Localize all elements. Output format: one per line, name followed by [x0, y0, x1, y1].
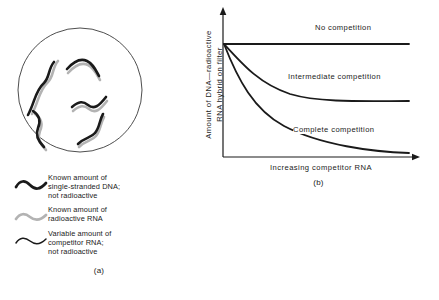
series-label-no-competition: No competition: [315, 23, 371, 32]
panel-b: Amount of DNA—radioactive RNA hybrid on …: [198, 0, 439, 300]
legend-item-rna: Known amount of radioactive RNA: [14, 204, 198, 224]
y-axis-title-line-1: Amount of DNA—radioactive: [204, 30, 213, 138]
rna-strand: [32, 61, 58, 114]
chart-series: [224, 44, 409, 153]
filter-disc-diagram: [8, 14, 190, 166]
thick-black-squiggle-icon: [14, 178, 48, 192]
y-axis-title-line-2: RNA hybrid on filter: [214, 47, 223, 121]
legend-item-rna-label: Known amount of radioactive RNA: [48, 204, 107, 223]
legend-item-competitor-rna-label: Variable amount of competitor RNA; not r…: [48, 228, 111, 256]
gray-squiggle-icon: [14, 210, 48, 224]
legend-item-dna: Known amount of single-stranded DNA; not…: [14, 172, 198, 200]
series-label-intermediate-competition: Intermediate competition: [288, 72, 381, 81]
panel-b-caption: (b): [198, 178, 439, 187]
figure-root: Known amount of single-stranded DNA; not…: [0, 0, 439, 300]
panel-a-caption: (a): [0, 266, 198, 275]
x-axis-title: Increasing competitor RNA: [216, 163, 426, 172]
legend-item-dna-label: Known amount of single-stranded DNA; not…: [48, 172, 120, 200]
dna-strand: [33, 111, 44, 147]
legend-item-competitor-rna: Variable amount of competitor RNA; not r…: [14, 228, 198, 256]
dna-strand: [28, 62, 54, 115]
dna-strand: [72, 97, 106, 107]
filter-disc-svg: [8, 14, 190, 166]
y-axis-title: Amount of DNA—radioactive RNA hybrid on …: [204, 5, 225, 165]
series-label-complete-competition: Complete competition: [293, 125, 374, 134]
panel-a: Known amount of single-stranded DNA; not…: [0, 0, 198, 300]
thin-black-squiggle-icon: [14, 234, 48, 248]
panel-a-legend: Known amount of single-stranded DNA; not…: [14, 172, 198, 261]
competition-hybridization-chart: Amount of DNA—radioactive RNA hybrid on …: [198, 0, 439, 180]
x-axis-arrowhead: [412, 154, 420, 161]
